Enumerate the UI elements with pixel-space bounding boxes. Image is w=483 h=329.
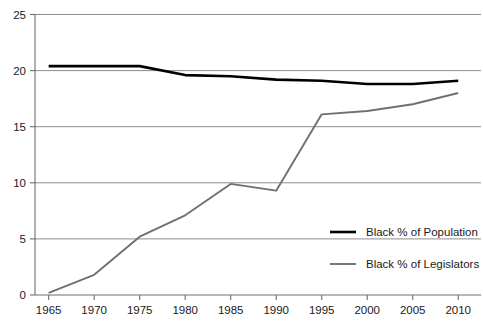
gridlines — [35, 15, 481, 239]
y-tick-label-25: 25 — [13, 9, 26, 21]
x-tick-label-2000: 2000 — [354, 304, 380, 316]
x-tick-label-1980: 1980 — [172, 304, 198, 316]
x-tick-label-1970: 1970 — [81, 304, 107, 316]
legend-label-legislators: Black % of Legislators — [366, 258, 479, 270]
y-tick-label-5: 5 — [20, 233, 26, 245]
chart-legend: Black % of PopulationBlack % of Legislat… — [330, 226, 479, 270]
line-chart: 0510152025 19651970197519801985199019952… — [0, 0, 483, 329]
x-tick-label-2005: 2005 — [400, 304, 426, 316]
axes — [35, 15, 481, 296]
y-tick-label-20: 20 — [13, 65, 26, 77]
y-tick-label-0: 0 — [20, 289, 26, 301]
y-tick-label-15: 15 — [13, 121, 26, 133]
x-tick-label-2010: 2010 — [445, 304, 471, 316]
x-tick-label-1975: 1975 — [127, 304, 153, 316]
legend-label-population: Black % of Population — [366, 226, 478, 238]
chart-canvas: 0510152025 19651970197519801985199019952… — [0, 0, 483, 329]
x-tick-label-1985: 1985 — [218, 304, 244, 316]
x-tick-label-1995: 1995 — [309, 304, 335, 316]
x-tick-label-1990: 1990 — [263, 304, 289, 316]
series-line-black-pct-population — [49, 66, 459, 84]
y-tick-label-10: 10 — [13, 177, 26, 189]
x-axis-ticks: 1965197019751980198519901995200020052010 — [36, 295, 471, 316]
y-axis-ticks: 0510152025 — [13, 9, 35, 302]
x-tick-label-1965: 1965 — [36, 304, 62, 316]
